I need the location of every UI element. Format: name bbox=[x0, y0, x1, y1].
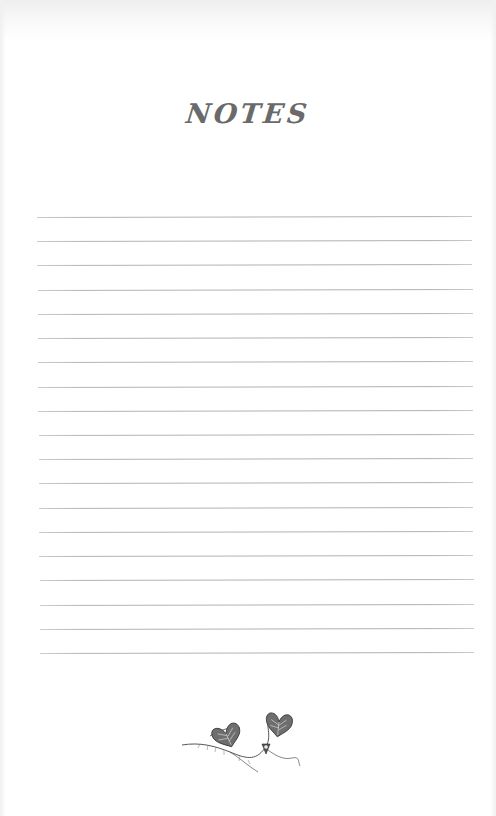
ruled-line bbox=[39, 507, 473, 509]
ruled-line bbox=[40, 652, 474, 654]
ruled-line bbox=[37, 216, 472, 218]
ruled-line bbox=[37, 240, 472, 242]
ruled-line bbox=[39, 458, 473, 460]
ruled-line bbox=[39, 483, 473, 485]
ruled-line bbox=[39, 579, 473, 581]
vine-ornament-icon bbox=[180, 700, 305, 775]
notes-page: NOTES bbox=[0, 0, 496, 816]
ruled-line bbox=[39, 555, 473, 557]
ruled-line bbox=[38, 313, 473, 315]
ruled-line bbox=[40, 604, 474, 606]
ruled-line bbox=[38, 386, 473, 388]
ruled-line bbox=[38, 337, 473, 339]
ruled-line bbox=[38, 361, 473, 363]
ruled-line bbox=[37, 289, 472, 291]
ruled-line bbox=[38, 434, 473, 436]
ruled-line bbox=[38, 410, 473, 412]
ruled-line bbox=[37, 265, 472, 267]
ruled-lines bbox=[0, 0, 496, 816]
ruled-line bbox=[40, 628, 474, 630]
ruled-line bbox=[39, 531, 473, 533]
